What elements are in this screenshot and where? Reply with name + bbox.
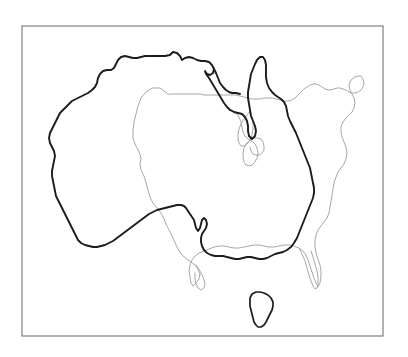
map-overlay-figure: Australia overlaid on the contiguous Uni… — [0, 0, 408, 357]
figure-background — [0, 0, 408, 357]
figure-root: Australia overlaid on the contiguous Uni… — [0, 0, 408, 357]
